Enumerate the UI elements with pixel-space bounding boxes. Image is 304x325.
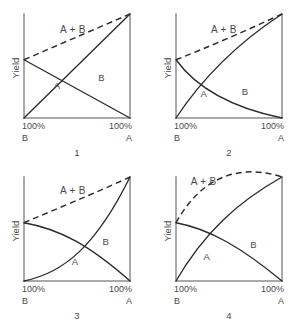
panel-2-concave-a-convex-b: YieldA + BAB100%100%BA2: [152, 0, 304, 162]
x-label-pure-b: B: [22, 296, 28, 306]
y-axis-label: Yield: [162, 58, 173, 79]
panel-3-convex-a-concave-b: YieldA + BAB100%100%BA3: [0, 163, 152, 325]
x-tick-right: 100%: [261, 284, 284, 294]
label-curve-b: B: [102, 236, 108, 247]
panel-4-synergistic-sum: YieldA + BAB100%100%BA4: [152, 163, 304, 325]
label-curve-a: A: [204, 251, 211, 262]
x-tick-left: 100%: [174, 284, 197, 294]
label-curve-b: B: [242, 86, 248, 97]
panel-number: 1: [74, 147, 79, 158]
x-tick-left: 100%: [22, 121, 45, 131]
label-curve-b: B: [98, 72, 104, 83]
curve-b: [24, 60, 130, 118]
x-label-pure-a: A: [278, 296, 284, 306]
label-a-plus-b: A + B: [60, 185, 86, 196]
yield-mixture-figure: YieldA + BAB100%100%BA1YieldA + BAB100%1…: [0, 0, 304, 325]
y-axis-label: Yield: [10, 221, 21, 242]
label-curve-a: A: [200, 88, 207, 99]
curve-b: [24, 223, 130, 281]
label-curve-b: B: [250, 239, 256, 250]
panel-plot-3: YieldA + BAB100%100%BA3: [0, 163, 152, 325]
curve-b: [176, 60, 282, 118]
curve-a-plus-b: [24, 14, 130, 60]
y-axis-label: Yield: [10, 58, 21, 79]
x-tick-right: 100%: [109, 121, 132, 131]
label-a-plus-b: A + B: [191, 176, 217, 187]
label-curve-a: A: [54, 80, 61, 91]
x-tick-right: 100%: [109, 284, 132, 294]
panel-number: 4: [226, 310, 231, 321]
x-tick-left: 100%: [174, 121, 197, 131]
curve-b: [176, 223, 282, 281]
x-label-pure-a: A: [126, 296, 132, 306]
x-tick-right: 100%: [261, 121, 284, 131]
label-a-plus-b: A + B: [211, 24, 237, 35]
curve-a: [176, 177, 282, 281]
label-curve-a: A: [72, 256, 79, 267]
y-axis-label: Yield: [162, 221, 173, 242]
panel-plot-2: YieldA + BAB100%100%BA2: [152, 0, 304, 162]
panel-1-linear-additive: YieldA + BAB100%100%BA1: [0, 0, 152, 162]
panel-number: 3: [74, 310, 79, 321]
panel-plot-4: YieldA + BAB100%100%BA4: [152, 163, 304, 325]
x-label-pure-a: A: [278, 133, 284, 143]
panel-number: 2: [226, 147, 231, 158]
panel-plot-1: YieldA + BAB100%100%BA1: [0, 0, 152, 162]
x-label-pure-a: A: [126, 133, 132, 143]
x-label-pure-b: B: [22, 133, 28, 143]
label-a-plus-b: A + B: [60, 24, 86, 35]
x-label-pure-b: B: [174, 133, 180, 143]
x-tick-left: 100%: [22, 284, 45, 294]
x-label-pure-b: B: [174, 296, 180, 306]
curve-a-plus-b: [176, 14, 282, 60]
